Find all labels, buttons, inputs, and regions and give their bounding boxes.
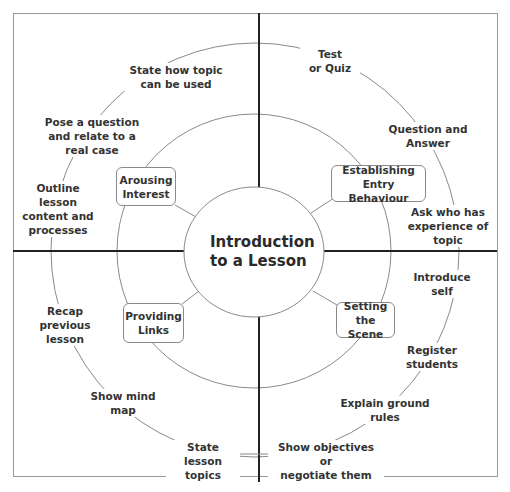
- item-show-objectives: Show objectives or negotiate them: [268, 440, 384, 482]
- item-question-and-answer: Question and Answer: [384, 122, 472, 150]
- box-setting-the-scene: Setting the Scene: [336, 302, 395, 338]
- box-providing-links: Providing Links: [123, 303, 184, 343]
- item-recap-previous-lesson: Recap previous lesson: [18, 304, 112, 346]
- item-introduce-self: Introduce self: [410, 270, 474, 298]
- item-pose-a-question: Pose a question and relate to a real cas…: [42, 115, 142, 157]
- item-show-mind-map: Show mind map: [76, 389, 170, 417]
- item-outline-lesson-content: Outline lesson content and processes: [16, 181, 100, 237]
- box-arousing-interest: Arousing Interest: [116, 167, 176, 206]
- item-test-or-quiz: Test or Quiz: [300, 47, 360, 75]
- center-title: Introduction to a Lesson: [210, 233, 315, 271]
- box-establishing-entry-behaviour: Establishing Entry Behaviour: [331, 165, 426, 202]
- item-ask-who-has-experience: Ask who has experience of topic: [404, 205, 492, 247]
- item-state-lesson-topics: State lesson topics: [166, 440, 240, 482]
- item-explain-ground-rules: Explain ground rules: [336, 396, 434, 424]
- cropped-caption: [40, 0, 340, 2]
- item-state-how-topic-can-be-used: State how topic can be used: [124, 63, 228, 91]
- item-register-students: Register students: [398, 343, 466, 371]
